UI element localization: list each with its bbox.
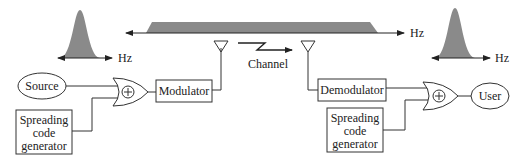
rx-spreading-code-generator: Spreading code generator <box>327 108 383 152</box>
channel-link: Channel <box>238 43 292 71</box>
channel-label: Channel <box>248 57 289 71</box>
spread-spectrum-diagram: Hz Hz Hz Source Spreading code generator… <box>0 0 523 165</box>
source-label: Source <box>25 79 58 93</box>
modulator-label: Modulator <box>159 84 210 98</box>
user-label: User <box>479 89 502 103</box>
modulator-block: Modulator <box>156 80 212 102</box>
tx-scg-line2: code <box>33 126 56 140</box>
rx-scg-line2: code <box>344 124 367 138</box>
user-node: User <box>471 83 509 109</box>
tx-spreading-code-generator: Spreading code generator <box>16 110 72 154</box>
narrowband-tx-spectrum: Hz <box>58 10 132 65</box>
source-node: Source <box>18 73 66 99</box>
narrowband-rx-spectrum: Hz <box>432 8 509 65</box>
rx-xor-gate <box>423 82 458 110</box>
rx-scg-line1: Spreading <box>331 111 380 125</box>
demodulator-label: Demodulator <box>320 83 383 97</box>
hz-label-wideband: Hz <box>410 26 424 40</box>
wideband-spectrum: Hz <box>126 22 424 40</box>
tx-xor-gate <box>113 78 148 106</box>
tx-scg-line1: Spreading <box>20 113 69 127</box>
rx-antenna-icon <box>301 41 315 52</box>
rx-scg-line3: generator <box>332 137 377 151</box>
tx-scg-line3: generator <box>21 139 66 153</box>
demodulator-block: Demodulator <box>318 79 386 101</box>
hz-label-tx: Hz <box>118 51 132 65</box>
hz-label-rx: Hz <box>495 51 509 65</box>
